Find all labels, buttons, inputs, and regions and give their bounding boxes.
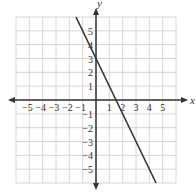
y-tick-label: −2	[82, 123, 93, 134]
x-tick-label: 4	[147, 102, 152, 113]
y-axis-label: y	[96, 0, 102, 9]
x-tick-label: −5	[22, 102, 33, 113]
y-tick-label: −1	[82, 109, 93, 120]
y-tick-label: −4	[82, 150, 93, 161]
x-tick-label: −2	[62, 102, 73, 113]
y-tick-label: 2	[88, 67, 93, 78]
y-tick-label: −5	[82, 164, 93, 175]
y-tick-label: 5	[88, 26, 93, 37]
coordinate-graph: −5−4−3−2−11234554321−1−2−3−4−5 x y	[0, 0, 196, 195]
x-tick-label: 1	[107, 102, 112, 113]
axes	[8, 8, 188, 190]
y-tick-label: 1	[88, 81, 93, 92]
x-tick-label: 5	[160, 102, 165, 113]
x-axis-label: x	[189, 94, 195, 106]
x-tick-label: 3	[134, 102, 139, 113]
y-tick-label: −3	[82, 137, 93, 148]
y-tick-label: 3	[88, 54, 93, 65]
x-tick-label: −3	[49, 102, 60, 113]
x-tick-label: −4	[35, 102, 46, 113]
